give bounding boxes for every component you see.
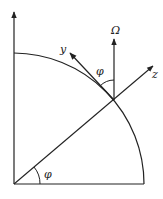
earth-rotation-diagram: Ω y z φ φ [0,0,163,199]
earth-surface-arc [14,53,144,184]
angle-arc-top [100,80,114,86]
y-axis [70,53,114,100]
phi-bottom-label: φ [44,168,52,181]
angle-arc-bottom [34,167,40,184]
phi-top-label: φ [96,65,104,78]
y-label: y [59,43,67,56]
z-axis [14,66,153,184]
omega-label: Ω [110,24,120,37]
z-label: z [151,68,158,81]
